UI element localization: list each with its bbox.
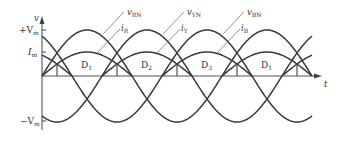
label-ib: iB — [241, 23, 249, 34]
leader-ib — [217, 29, 240, 53]
tick-label-im: Im — [27, 47, 38, 58]
interval-label-4: D1 — [261, 60, 272, 71]
interval-label-3: D3 — [201, 60, 212, 71]
axes: v t +Vm Im −Vm — [19, 13, 328, 130]
tick-label-neg-vm: −Vm — [20, 116, 40, 127]
leader-iy — [157, 29, 180, 53]
interval-label-1: D1 — [81, 60, 92, 71]
label-iy: iY — [181, 23, 189, 34]
label-vrn: vRN — [127, 7, 142, 18]
label-vbn: vBN — [247, 7, 261, 18]
t-axis-arrow-icon — [314, 74, 322, 79]
y-axis-label: v — [34, 13, 39, 23]
tick-label-vm: +Vm — [19, 25, 39, 36]
label-vyn: vYN — [187, 7, 201, 18]
interval-label-2: D2 — [141, 60, 152, 71]
leader-ir — [97, 29, 120, 53]
label-leaders — [97, 12, 244, 53]
t-axis-label: t — [324, 79, 328, 89]
three-phase-waveform-diagram: v t +Vm Im −Vm vRN iR vYN iY vBN iB D1 D… — [0, 0, 350, 147]
y-axis-arrow-icon — [40, 16, 45, 24]
label-ir: iR — [121, 23, 129, 34]
